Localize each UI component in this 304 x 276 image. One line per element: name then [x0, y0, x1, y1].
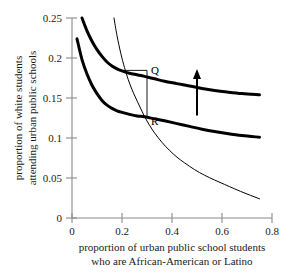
chart-svg: 00.050.10.150.20.25 00.20.40.60.8 QR pro…	[0, 0, 304, 276]
x-tick-label-1: 0.2	[115, 225, 129, 237]
x-tick-label-4: 0.8	[265, 225, 279, 237]
y-axis-title-line2: attending urban public schools	[26, 51, 38, 186]
y-tick-label-2: 0.1	[48, 132, 62, 144]
x-tick-label-3: 0.6	[215, 225, 229, 237]
y-tick-label-0: 0	[57, 212, 63, 224]
y-tick-label-4: 0.2	[48, 52, 62, 64]
x-axis-title-line2: who are African-American or Latino	[91, 255, 253, 267]
x-axis-title-line1: proportion of urban public school studen…	[79, 241, 266, 253]
y-tick-label-5: 0.25	[43, 12, 63, 24]
chart-container: 00.050.10.150.20.25 00.20.40.60.8 QR pro…	[0, 0, 304, 276]
y-tick-label-3: 0.15	[43, 92, 63, 104]
y-tick-label-1: 0.05	[43, 172, 63, 184]
x-tick-label-0: 0	[69, 225, 75, 237]
point-q-label: Q	[151, 64, 159, 76]
y-axis-title-line1: proportion of white students	[12, 56, 24, 180]
x-tick-label-2: 0.4	[165, 225, 179, 237]
point-r-label: R	[151, 115, 159, 127]
